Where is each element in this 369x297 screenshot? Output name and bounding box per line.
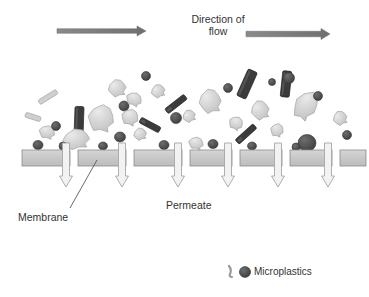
particle-body xyxy=(52,122,61,131)
particle-body xyxy=(171,113,182,124)
figure-canvas xyxy=(0,0,369,297)
flow-direction-line-2: flow xyxy=(172,26,264,38)
particle-round-11 xyxy=(115,132,126,142)
particle-body xyxy=(208,140,218,149)
particle-round-30 xyxy=(269,79,276,86)
particle-body xyxy=(99,142,108,150)
particle-round-32 xyxy=(284,73,295,84)
particle-body xyxy=(224,84,233,93)
particle-round-26 xyxy=(224,84,233,93)
flow-direction-line-1: Direction of xyxy=(172,14,264,26)
flow-direction-label: Direction offlow xyxy=(172,14,264,38)
particle-round-40 xyxy=(343,131,352,140)
particle-body xyxy=(314,92,323,101)
particle-body xyxy=(119,101,129,111)
particle-round-17 xyxy=(171,113,182,124)
particle-round-20 xyxy=(159,141,169,150)
legend-particle-icon xyxy=(239,267,250,278)
particle-body xyxy=(115,132,126,142)
membrane-segment-7 xyxy=(340,150,366,166)
particle-round-34 xyxy=(314,92,323,101)
particle-round-22 xyxy=(208,140,218,149)
particle-body xyxy=(33,141,43,150)
membrane-label: Membrane xyxy=(18,212,68,224)
particle-round-7 xyxy=(52,122,61,131)
particle-body xyxy=(248,142,257,150)
particle-body xyxy=(142,72,151,81)
particle-round-29 xyxy=(248,142,257,150)
particle-body xyxy=(343,131,352,140)
microplastics-legend-label: Microplastics xyxy=(254,266,312,277)
particle-body xyxy=(159,141,169,150)
particle-round-37 xyxy=(298,135,316,152)
permeate-label: Permeate xyxy=(166,200,212,212)
particle-round-5 xyxy=(33,141,43,150)
particle-body xyxy=(284,73,295,84)
particle-body xyxy=(269,79,276,86)
particle-round-14 xyxy=(142,72,151,81)
particle-round-12 xyxy=(99,142,108,150)
particle-body xyxy=(298,135,316,152)
particle-round-9 xyxy=(119,101,129,111)
